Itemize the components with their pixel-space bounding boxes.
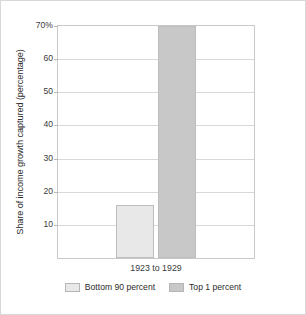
gridline bbox=[58, 159, 254, 160]
legend-swatch bbox=[65, 283, 80, 292]
y-axis-tick-mark bbox=[54, 125, 58, 126]
x-axis-category-label: 1923 to 1929 bbox=[57, 263, 255, 273]
gridline bbox=[58, 192, 254, 193]
y-axis-tick-mark bbox=[54, 192, 58, 193]
bar-bottom-90-percent bbox=[116, 205, 154, 258]
legend-swatch bbox=[169, 283, 184, 292]
y-axis-tick-label: 30 bbox=[43, 153, 53, 163]
bar-top-1-percent bbox=[158, 26, 196, 258]
legend-label: Bottom 90 percent bbox=[85, 282, 155, 292]
gridline bbox=[58, 225, 254, 226]
y-axis-label-text: Share of income growth captured (percent… bbox=[15, 49, 25, 235]
y-axis-label: Share of income growth captured (percent… bbox=[13, 25, 27, 259]
legend-item: Top 1 percent bbox=[169, 282, 241, 292]
legend-item: Bottom 90 percent bbox=[65, 282, 155, 292]
gridline bbox=[58, 92, 254, 93]
y-axis-tick-mark bbox=[54, 92, 58, 93]
chart-figure: Share of income growth captured (percent… bbox=[0, 0, 306, 315]
y-axis-tick-label: 70% bbox=[36, 20, 53, 30]
y-axis-tick-mark bbox=[54, 225, 58, 226]
gridline bbox=[58, 59, 254, 60]
legend-label: Top 1 percent bbox=[189, 282, 241, 292]
chart-legend: Bottom 90 percentTop 1 percent bbox=[1, 282, 305, 292]
y-axis-tick-mark bbox=[54, 26, 58, 27]
y-axis-tick-label: 50 bbox=[43, 86, 53, 96]
y-axis-tick-label: 60 bbox=[43, 53, 53, 63]
y-axis-tick-mark bbox=[54, 59, 58, 60]
y-axis-tick-label: 20 bbox=[43, 186, 53, 196]
gridline bbox=[58, 125, 254, 126]
plot-area bbox=[57, 25, 255, 259]
y-axis-tick-labels: 70%605040302010 bbox=[29, 19, 56, 265]
y-axis-tick-label: 40 bbox=[43, 119, 53, 129]
y-axis-tick-mark bbox=[54, 159, 58, 160]
y-axis-tick-label: 10 bbox=[43, 219, 53, 229]
